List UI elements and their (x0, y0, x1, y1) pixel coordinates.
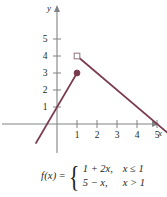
y-axis-label: y (46, 3, 51, 13)
case-row: 5 − x, x > 1 (83, 178, 145, 189)
case-row: 1 + 2x, x ≤ 1 (83, 164, 145, 175)
curve-segment-descending (77, 56, 167, 146)
case-expression: 1 + 2x, (83, 164, 121, 175)
y-tick-label-5: 5 (43, 34, 48, 44)
case-condition: x ≤ 1 (123, 164, 144, 175)
closed-endpoint-marker (74, 70, 80, 76)
y-tick-label-2: 2 (43, 85, 48, 95)
case-expression: 5 − x, (83, 178, 121, 189)
x-tick-label-4: 4 (135, 130, 140, 140)
left-brace: { (69, 164, 80, 189)
x-axis-label: x (157, 128, 162, 138)
open-endpoint-marker (74, 53, 80, 59)
y-axis-arrow (54, 5, 60, 12)
y-tick-label-3: 3 (43, 68, 48, 78)
x-tick-label-1: 1 (75, 130, 80, 140)
y-tick-label-1: 1 (43, 102, 48, 112)
x-tick-label-3: 3 (115, 130, 120, 140)
piecewise-function-figure: 1 2 3 4 5 1 2 3 4 5 x y f(x) = { 1 + 2x,… (0, 0, 167, 197)
cases-list: 1 + 2x, x ≤ 1 5 − x, x > 1 (83, 164, 145, 188)
x-tick-label-2: 2 (95, 130, 100, 140)
case-condition: x > 1 (123, 178, 145, 189)
equals-sign: = (59, 170, 65, 181)
y-tick-label-4: 4 (43, 51, 48, 61)
piecewise-formula: f(x) = { 1 + 2x, x ≤ 1 5 − x, x > 1 (41, 156, 167, 196)
function-argument: (x) (44, 170, 56, 181)
function-notation: f(x) = (41, 171, 65, 182)
